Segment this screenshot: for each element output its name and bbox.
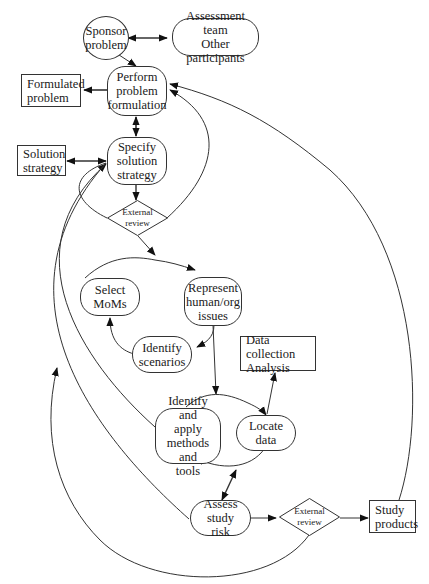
node-assess-study-risk: Assess study risk	[190, 500, 251, 536]
node-label: Represent human/org issues	[186, 281, 240, 323]
node-external-review-1: External review	[107, 200, 168, 236]
edge-select-represent	[85, 258, 195, 278]
node-formulated-problem: Formulated problem	[21, 74, 81, 107]
edge-review1-specify	[79, 163, 107, 218]
node-solution-strategy: Solution strategy	[17, 145, 66, 176]
node-label: External review	[294, 506, 325, 528]
node-specify-solution-strategy: Specify solution strategy	[107, 137, 167, 185]
node-represent-human-org: Represent human/org issues	[184, 277, 242, 326]
node-external-review-2: External review	[279, 498, 340, 536]
edge-scenarios-select	[110, 318, 134, 354]
edge-review1-perform	[167, 90, 209, 218]
node-label: Select MoMs	[93, 283, 126, 311]
node-locate-data: Locate data	[236, 415, 296, 451]
node-label: Assessment team Other participants	[175, 9, 256, 65]
edge-represent-methods	[213, 325, 216, 394]
node-study-products: Study products	[369, 500, 416, 533]
node-assessment-team: Assessment team Other participants	[172, 18, 259, 56]
node-label: External review	[122, 207, 153, 229]
node-select-moms: Select MoMs	[80, 278, 140, 316]
node-label: Solution strategy	[23, 147, 65, 175]
node-label: Locate data	[249, 419, 283, 447]
node-label: Study products	[375, 503, 418, 531]
edge-locate-assess	[222, 470, 236, 500]
node-perform-problem-formulation: Perform problem formulation	[107, 66, 167, 116]
edge-review1-represent	[138, 236, 155, 255]
node-label: Identify and apply methods and tools	[158, 394, 218, 478]
edge-locate-datacollection	[267, 373, 275, 414]
node-data-collection: Data collection Analysis	[240, 336, 316, 371]
node-label: Data collection Analysis	[246, 333, 313, 375]
node-label: Sponsor problem	[85, 24, 127, 52]
node-label: Specify solution strategy	[117, 140, 157, 182]
node-identify-apply-methods: Identify and apply methods and tools	[155, 408, 221, 464]
node-identify-scenarios: Identify scenarios	[132, 336, 192, 373]
node-label: Assess study risk	[193, 497, 248, 539]
edge-represent-scenarios	[197, 325, 214, 347]
node-label: Perform problem formulation	[108, 70, 167, 112]
node-label: Formulated problem	[27, 77, 85, 105]
node-label: Identify scenarios	[139, 341, 186, 369]
node-sponsor-problem: Sponsor problem	[83, 16, 129, 60]
